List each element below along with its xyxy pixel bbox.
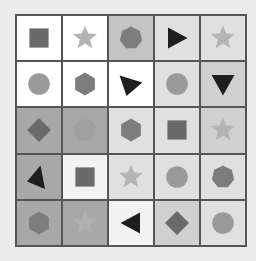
star-icon [70,208,100,238]
triangle-left-icon [116,208,146,238]
grid-cell-r2-c1[interactable] [16,61,62,107]
hexagon-icon [24,208,54,238]
circle-icon [70,115,100,145]
grid-cell-r4-c5[interactable] [200,154,246,200]
star-icon [116,162,146,192]
grid-cell-r5-c4[interactable] [154,200,200,246]
grid-cell-r3-c3[interactable] [108,107,154,153]
grid-cell-r5-c2[interactable] [62,200,108,246]
triangle-down-icon [208,69,238,99]
grid-cell-r1-c5[interactable] [200,15,246,61]
square-icon [70,162,100,192]
star-icon [208,23,238,53]
square-icon [24,23,54,53]
grid-cell-r4-c1[interactable] [16,154,62,200]
star-icon [208,115,238,145]
hexagon-icon [70,69,100,99]
triangle-right-icon [162,23,192,53]
grid-cell-r5-c3[interactable] [108,200,154,246]
grid-cell-r2-c4[interactable] [154,61,200,107]
grid-cell-r1-c4[interactable] [154,15,200,61]
grid-cell-r2-c2[interactable] [62,61,108,107]
grid-cell-r3-c5[interactable] [200,107,246,153]
shape-grid [15,14,247,247]
heptagon-icon [116,23,146,53]
hexagon-icon [116,115,146,145]
grid-cell-r1-c2[interactable] [62,15,108,61]
diamond-icon [162,208,192,238]
grid-cell-r4-c2[interactable] [62,154,108,200]
grid-cell-r3-c1[interactable] [16,107,62,153]
circle-icon [208,208,238,238]
circle-icon [24,69,54,99]
square-icon [162,115,192,145]
grid-cell-r1-c3[interactable] [108,15,154,61]
grid-cell-r1-c1[interactable] [16,15,62,61]
circle-icon [162,162,192,192]
heptagon-icon [208,162,238,192]
grid-cell-r3-c2[interactable] [62,107,108,153]
triangle-icon [24,162,54,192]
grid-cell-r4-c3[interactable] [108,154,154,200]
grid-cell-r4-c4[interactable] [154,154,200,200]
grid-cell-r3-c4[interactable] [154,107,200,153]
triangle-icon [116,69,146,99]
grid-cell-r2-c5[interactable] [200,61,246,107]
star-icon [70,23,100,53]
diamond-icon [24,115,54,145]
circle-icon [162,69,192,99]
grid-cell-r5-c5[interactable] [200,200,246,246]
grid-cell-r5-c1[interactable] [16,200,62,246]
grid-cell-r2-c3[interactable] [108,61,154,107]
